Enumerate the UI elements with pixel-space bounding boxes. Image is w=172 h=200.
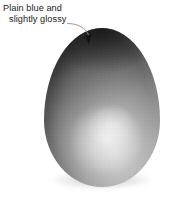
- annotation-label-line-1: Plain blue and: [3, 3, 95, 14]
- annotation-label-line-2: slightly glossy: [3, 14, 95, 25]
- egg-image: [44, 28, 160, 188]
- egg-annotation-figure: Plain blue and slightly glossy: [0, 0, 172, 200]
- egg-surface-grain: [44, 28, 160, 187]
- annotation-label: Plain blue and slightly glossy: [3, 3, 95, 26]
